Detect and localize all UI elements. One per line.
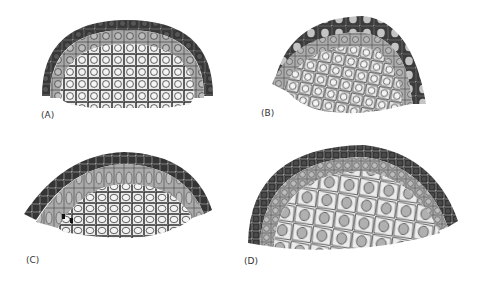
panel-label-b: (B) — [261, 108, 274, 118]
tissue-section-c-diagram — [24, 148, 214, 243]
panel-b — [262, 12, 430, 114]
panel-a — [40, 18, 215, 108]
tissue-section-a-diagram — [40, 18, 215, 108]
panel-d — [244, 143, 464, 251]
tissue-section-d-diagram — [244, 143, 464, 251]
panel-c — [24, 148, 214, 243]
marker-cell — [70, 218, 73, 223]
panel-label-d: (D) — [244, 256, 258, 266]
tissue-section-b-diagram — [262, 12, 430, 114]
panel-label-a: (A) — [41, 110, 54, 120]
panel-label-c: (C) — [26, 255, 39, 265]
marker-cell — [62, 214, 65, 219]
